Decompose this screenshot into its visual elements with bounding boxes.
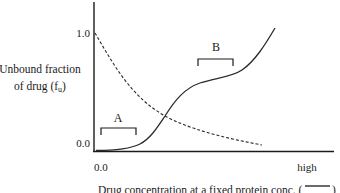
y-tick-0-0: 0.0 bbox=[76, 137, 90, 149]
x-axis-label: Drug concentration at a fixed protein co… bbox=[98, 184, 336, 193]
y-axis-label-line2: of drug (fu) bbox=[14, 80, 66, 94]
bracket-a: A bbox=[101, 111, 136, 135]
solid-curve bbox=[96, 28, 275, 151]
chart-canvas: 1.0 0.0 0.0 high Unbound fraction of dru… bbox=[0, 0, 340, 193]
bracket-b: B bbox=[198, 40, 233, 66]
x-axis-label-text: Drug concentration at a fixed protein co… bbox=[98, 184, 303, 193]
bracket-b-shape bbox=[198, 59, 233, 66]
x-tick-high: high bbox=[297, 161, 317, 173]
y-tick-1-0: 1.0 bbox=[76, 27, 90, 39]
x-tick-0-0: 0.0 bbox=[94, 161, 108, 173]
annotation-a: A bbox=[114, 111, 123, 125]
x-axis-label-suffix: ) bbox=[332, 184, 336, 193]
bracket-a-shape bbox=[101, 128, 136, 135]
annotation-b: B bbox=[212, 40, 220, 54]
y-axis-label-line1: Unbound fraction bbox=[0, 63, 81, 75]
